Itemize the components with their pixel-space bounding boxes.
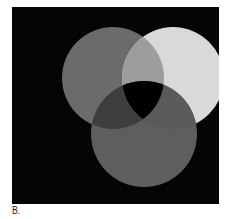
venn-diagram-panel	[12, 7, 219, 204]
venn-diagram	[12, 7, 219, 204]
figure-caption: B.	[12, 204, 20, 216]
